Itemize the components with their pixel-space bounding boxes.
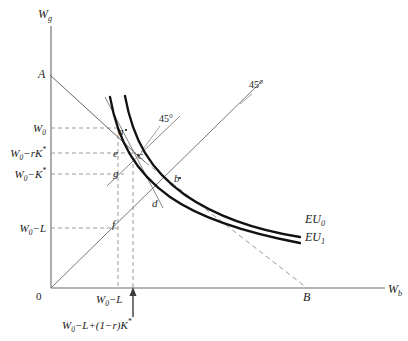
point-label-a: a xyxy=(118,126,124,137)
x-axis-arrow-marker xyxy=(130,287,137,317)
x-tick-label-W0-L: W0−L xyxy=(96,292,122,307)
point-label-c: c xyxy=(138,150,143,161)
y-tick-label-W0: W0 xyxy=(0,121,46,136)
origin-label: 0 xyxy=(36,291,42,302)
endpoint-label-A: A xyxy=(38,68,45,80)
endpoint-label-B: B xyxy=(303,291,310,303)
curve-label-EU1: EU1 xyxy=(305,231,325,247)
point-label-g: g xyxy=(113,168,119,179)
indifference-curve-EU0 xyxy=(125,96,300,237)
y-tick-label-W0-L: W0−L xyxy=(0,221,46,236)
axes-group xyxy=(51,26,385,288)
x-axis-label: Wb xyxy=(388,283,402,299)
point-label-d: d xyxy=(152,198,158,209)
point-label-b: b xyxy=(174,173,180,184)
figure-canvas xyxy=(0,0,408,341)
curve-label-EU0: EU0 xyxy=(305,213,325,229)
leader-line-45-inner xyxy=(141,126,160,152)
point-label-e: e xyxy=(113,148,118,159)
y-tick-label-W0-K: W0−K* xyxy=(0,167,46,182)
indifference-curve-EU1 xyxy=(110,97,300,243)
forty-five-degree-ray xyxy=(51,80,263,288)
x-tick-label-W0-L-plus-1-minus-r-K: W0−L+(1−r)K* xyxy=(62,318,131,333)
angle-label-45-outer: 45° xyxy=(249,80,263,90)
point-label-f: f xyxy=(112,219,115,230)
guide-lines-group xyxy=(51,128,136,288)
angle-label-45-inner: 45° xyxy=(159,114,173,124)
point-dot-a xyxy=(125,129,127,131)
economics-indifference-curve-figure: Wg Wb 0 A B W0 W0−rK* W0−K* W0−L W0−L W0… xyxy=(0,0,408,341)
y-axis-label: Wg xyxy=(38,8,52,24)
y-tick-label-W0-rK: W0−rK* xyxy=(0,146,46,161)
leader-line-45-outer xyxy=(240,94,252,104)
